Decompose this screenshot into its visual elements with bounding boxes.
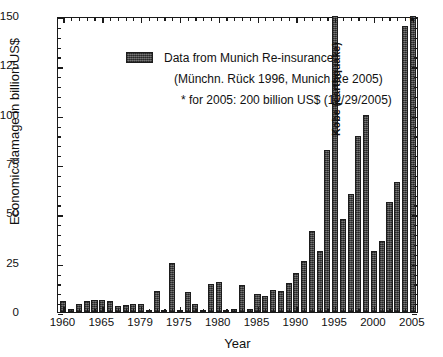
tick-mark: [414, 294, 417, 295]
tick-mark: [412, 166, 417, 167]
tick-mark: [397, 309, 398, 312]
tick-mark: [58, 275, 61, 276]
tick-mark: [412, 215, 417, 216]
bar: [317, 251, 323, 312]
tick-mark: [87, 18, 88, 21]
tick-mark: [258, 307, 259, 312]
tick-mark: [389, 309, 390, 312]
bar: [208, 284, 214, 312]
y-tick-label: 75: [6, 159, 19, 171]
tick-mark: [414, 87, 417, 88]
x-tick-label: 1975: [166, 317, 192, 329]
tick-mark: [126, 309, 127, 312]
tick-mark: [374, 18, 375, 23]
tick-mark: [273, 309, 274, 312]
tick-mark: [358, 18, 359, 21]
bar: [340, 219, 346, 312]
tick-mark: [382, 18, 383, 21]
tick-mark: [172, 309, 173, 312]
tick-mark: [102, 307, 103, 312]
legend-label-citation: (Münchn. Rück 1996, Munich Re 2005): [174, 73, 383, 85]
tick-mark: [58, 205, 61, 206]
tick-mark: [58, 304, 61, 305]
tick-mark: [351, 309, 352, 312]
tick-mark: [141, 307, 142, 312]
tick-mark: [211, 309, 212, 312]
tick-mark: [366, 18, 367, 21]
tick-mark: [58, 57, 61, 58]
tick-mark: [296, 18, 297, 23]
x-tick-label: 1965: [88, 317, 114, 329]
tick-mark: [188, 309, 189, 312]
y-tick-label: 25: [6, 258, 19, 270]
tick-mark: [195, 309, 196, 312]
tick-mark: [258, 18, 259, 23]
bar: [324, 150, 330, 312]
tick-mark: [265, 18, 266, 21]
tick-mark: [110, 18, 111, 21]
bar: [286, 283, 292, 312]
tick-mark: [79, 18, 80, 21]
tick-mark: [414, 196, 417, 197]
tick-mark: [304, 18, 305, 21]
tick-mark: [250, 18, 251, 21]
tick-mark: [58, 136, 61, 137]
tick-mark: [195, 18, 196, 21]
bar: [402, 26, 408, 312]
tick-mark: [58, 166, 63, 167]
tick-mark: [63, 307, 64, 312]
tick-mark: [172, 18, 173, 21]
tick-mark: [63, 18, 64, 23]
tick-mark: [58, 28, 61, 29]
bar: [301, 261, 307, 312]
tick-mark: [289, 309, 290, 312]
tick-mark: [58, 156, 61, 157]
tick-mark: [242, 309, 243, 312]
tick-mark: [180, 307, 181, 312]
tick-mark: [366, 309, 367, 312]
tick-mark: [58, 107, 61, 108]
x-tick-label: 1980: [205, 317, 231, 329]
y-tick-label: 100: [0, 110, 19, 122]
bar: [386, 202, 392, 313]
tick-mark: [405, 18, 406, 21]
tick-mark: [133, 309, 134, 312]
tick-mark: [414, 48, 417, 49]
tick-mark: [343, 18, 344, 21]
bar: [379, 241, 385, 312]
tick-mark: [203, 18, 204, 21]
x-tick-label: 1960: [50, 317, 76, 329]
tick-mark: [226, 18, 227, 21]
y-tick-label: 0: [13, 307, 19, 319]
tick-mark: [94, 309, 95, 312]
y-tick-label: 150: [0, 11, 19, 23]
tick-mark: [273, 18, 274, 21]
tick-mark: [58, 97, 61, 98]
bar: [363, 115, 369, 312]
tick-mark: [327, 18, 328, 21]
tick-mark: [412, 265, 417, 266]
tick-mark: [110, 309, 111, 312]
tick-mark: [414, 304, 417, 305]
tick-mark: [141, 18, 142, 23]
tick-mark: [226, 309, 227, 312]
tick-mark: [413, 307, 414, 312]
x-axis-title: Year: [57, 336, 418, 351]
tick-mark: [320, 309, 321, 312]
tick-mark: [71, 18, 72, 21]
tick-mark: [234, 309, 235, 312]
tick-mark: [58, 67, 63, 68]
tick-mark: [414, 156, 417, 157]
tick-mark: [94, 18, 95, 21]
tick-mark: [414, 127, 417, 128]
x-tick-label: 1979: [127, 317, 153, 329]
bar: [394, 182, 400, 312]
tick-mark: [414, 107, 417, 108]
tick-mark: [58, 225, 61, 226]
tick-mark: [414, 77, 417, 78]
tick-mark: [118, 309, 119, 312]
tick-mark: [412, 67, 417, 68]
x-tick-label: 1990: [283, 317, 309, 329]
tick-mark: [157, 18, 158, 21]
tick-mark: [312, 18, 313, 21]
